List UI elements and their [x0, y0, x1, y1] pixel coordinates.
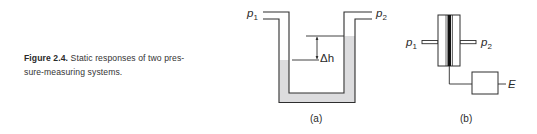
diaphragm-transducer: p1 p2 E (b): [405, 15, 516, 124]
label-figure-a: (a): [310, 113, 322, 124]
figure-diagrams: p1 p2 Δh (a) p1 p2 E (b): [0, 0, 537, 134]
label-p1-a: p1: [246, 7, 258, 22]
u-tube-manometer: p1 p2 Δh (a): [246, 7, 387, 124]
inlet-stub-p2: [460, 41, 476, 44]
label-p1-b: p1: [405, 36, 417, 51]
label-figure-b: (b): [460, 113, 472, 124]
label-p2-a: p2: [375, 7, 387, 22]
inlet-stub-p1: [422, 41, 438, 44]
signal-wire: [449, 66, 472, 84]
diaphragm: [448, 15, 452, 66]
signal-box: [472, 72, 498, 94]
label-p2-b: p2: [480, 36, 492, 51]
label-delta-h: Δh: [320, 52, 334, 64]
label-output-e: E: [508, 78, 516, 90]
delta-h-indicator: [292, 36, 344, 60]
